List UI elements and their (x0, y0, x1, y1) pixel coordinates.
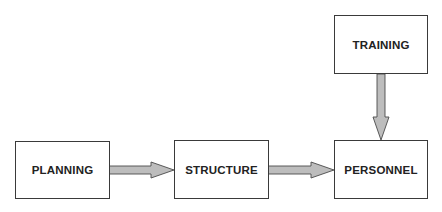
node-training: TRAINING (334, 15, 428, 74)
arrow-training-to-personnel (373, 74, 389, 140)
node-label: TRAINING (352, 39, 409, 51)
arrow-structure-to-personnel (268, 162, 334, 178)
node-label: PLANNING (32, 164, 94, 176)
node-personnel: PERSONNEL (334, 140, 428, 199)
node-label: STRUCTURE (185, 164, 258, 176)
arrow-planning-to-structure (109, 162, 174, 178)
node-planning: PLANNING (15, 141, 110, 199)
node-structure: STRUCTURE (174, 140, 269, 199)
node-label: PERSONNEL (344, 164, 417, 176)
